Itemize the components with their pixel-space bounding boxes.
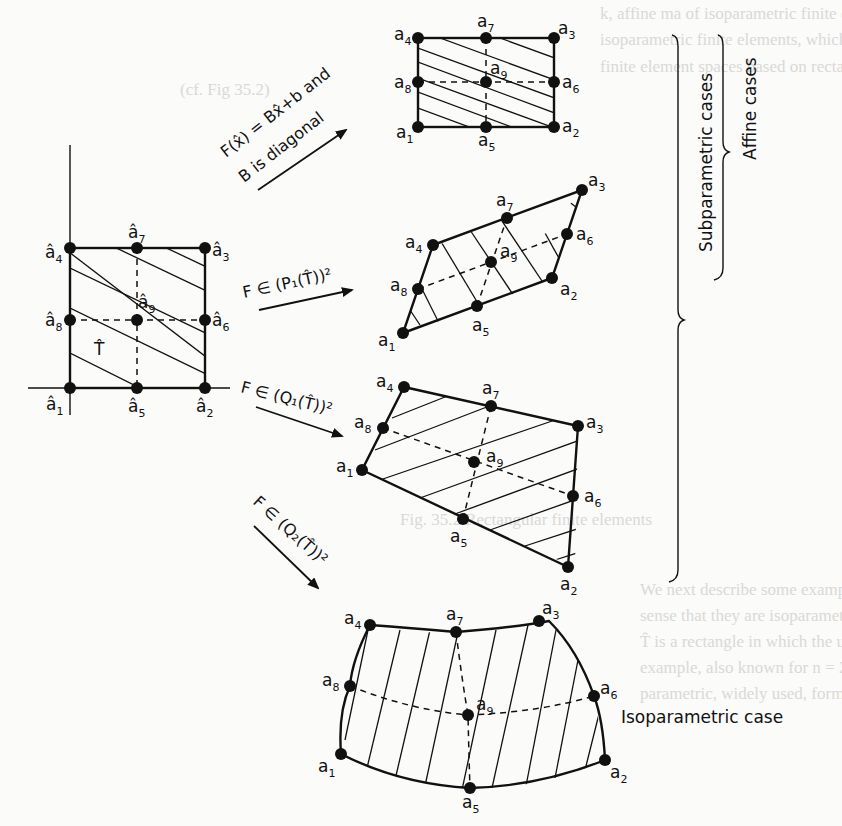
node-label-a2: â2 — [196, 396, 213, 420]
svg-text:a6: a6 — [576, 224, 593, 248]
svg-text:a7: a7 — [482, 378, 499, 402]
svg-text:a5: a5 — [472, 315, 489, 339]
svg-text:a4: a4 — [405, 232, 422, 256]
svg-text:a6: a6 — [584, 486, 601, 510]
hatching — [35, 226, 330, 398]
subparametric-bracket — [669, 35, 684, 582]
svg-text:a7: a7 — [477, 11, 494, 35]
svg-text:a7: a7 — [446, 604, 463, 628]
node-label-a9: â9 — [138, 292, 155, 316]
element-parallelogram: a4 a7 a3 a8 a9 a6 a1 a5 a2 — [378, 170, 605, 354]
svg-text:a5: a5 — [462, 792, 479, 816]
element-quadrilateral: a4 a7 a3 a8 a9 a6 a1 a5 a2 — [336, 371, 603, 598]
svg-text:a3: a3 — [558, 18, 575, 42]
reference-element-label: T̂ — [93, 339, 105, 359]
svg-text:a6: a6 — [600, 678, 617, 702]
svg-text:a8: a8 — [394, 72, 411, 96]
svg-text:a4: a4 — [394, 24, 411, 48]
svg-text:a2: a2 — [562, 116, 579, 140]
node-label-a5: â5 — [128, 396, 145, 420]
mapping-q2-label: F ∈ (Q₂(T̂))² — [249, 492, 331, 569]
mapping-p1: F ∈ (P₁(T̂))² — [241, 265, 352, 310]
svg-text:a8: a8 — [354, 412, 371, 436]
svg-text:a6: a6 — [562, 72, 579, 96]
svg-text:a2: a2 — [560, 279, 577, 303]
svg-text:a3: a3 — [588, 170, 605, 194]
case-brackets: Subparametric cases Affine cases — [669, 35, 760, 582]
svg-text:a4: a4 — [344, 608, 361, 632]
svg-text:a5: a5 — [478, 130, 495, 154]
svg-text:a4: a4 — [376, 371, 393, 395]
affine-label: Affine cases — [740, 57, 760, 160]
affine-bracket — [714, 35, 729, 280]
node-label-a3: â3 — [212, 240, 229, 264]
svg-text:a1: a1 — [318, 756, 335, 780]
mapping-q1: F ∈ (Q₁(T̂))² — [239, 377, 342, 436]
mapping-diagonal: F(x̂) = Bx̂+b and B is diagonal — [217, 64, 346, 190]
mapping-q2: F ∈ (Q₂(T̂))² — [249, 492, 331, 588]
node-label-a8: â8 — [45, 310, 62, 334]
node-label-a1: â1 — [46, 394, 63, 418]
node-label-a6: â6 — [212, 310, 229, 334]
svg-text:a7: a7 — [496, 190, 513, 214]
svg-text:a2: a2 — [560, 574, 577, 598]
svg-text:a1: a1 — [336, 456, 353, 480]
svg-text:a3: a3 — [586, 412, 603, 436]
finite-element-mapping-diagram: â4 â7 â3 â8 â9 â6 T̂ â1 â5 â2 F(x̂) = Bx… — [0, 0, 842, 826]
svg-text:a3: a3 — [542, 598, 559, 622]
curved-outline — [340, 621, 605, 788]
svg-text:a1: a1 — [378, 330, 395, 354]
element-curved: a4 a7 a3 a8 a9 a6 a1 a5 a2 Isoparametric… — [318, 598, 783, 816]
subparametric-label: Subparametric cases — [696, 73, 716, 252]
isoparametric-label: Isoparametric case — [621, 707, 783, 727]
svg-text:a8: a8 — [390, 275, 407, 299]
svg-text:a5: a5 — [450, 526, 467, 550]
mapping-q1-label: F ∈ (Q₁(T̂))² — [239, 377, 334, 418]
svg-text:a2: a2 — [610, 762, 627, 786]
svg-text:a8: a8 — [322, 670, 339, 694]
svg-text:a1: a1 — [396, 122, 413, 146]
element-rectangle: a4 a7 a3 a8 a9 a6 a1 a5 a2 — [394, 11, 579, 154]
svg-text:a9: a9 — [500, 241, 517, 265]
node-label-a4: â4 — [45, 242, 62, 266]
